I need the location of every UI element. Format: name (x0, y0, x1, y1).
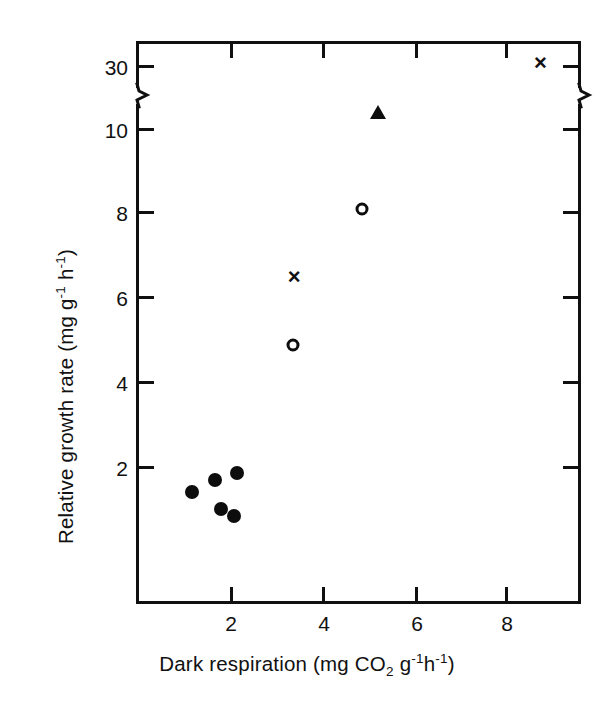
axis-spine-top (136, 41, 581, 44)
x-axis-title-mid2: h (424, 652, 436, 675)
x-axis-title-mid: g (394, 652, 412, 675)
ytick-label-4: 4 (90, 373, 128, 394)
axis-spine-left-lower (136, 104, 139, 604)
xtick-top-4 (322, 43, 325, 58)
ytick-right-2 (563, 466, 578, 469)
x-axis-title-exp1: -1 (411, 651, 423, 666)
y-axis-title-lead: Relative growth rate (mg g (54, 298, 77, 544)
data-point-filled-circle (214, 502, 228, 516)
xtick-top-8 (505, 43, 508, 58)
y-axis-title-mid: h (54, 268, 77, 286)
ytick-2 (139, 466, 154, 469)
xtick-8 (505, 587, 508, 602)
ytick-label-8: 8 (90, 203, 128, 224)
ytick-8 (139, 211, 154, 214)
x-axis-title-lead: Dark respiration (mg CO (159, 652, 386, 675)
xtick-4 (322, 587, 325, 602)
x-axis-title-tail: ) (448, 652, 455, 675)
y-axis-title-exp1: -1 (53, 286, 68, 298)
ytick-right-6 (563, 296, 578, 299)
ytick-right-8 (563, 211, 578, 214)
data-point-filled-circle (227, 509, 241, 523)
xtick-label-4: 4 (318, 613, 330, 634)
xtick-label-6: 6 (411, 613, 423, 634)
ytick-6 (139, 296, 154, 299)
xtick-top-2 (230, 43, 233, 58)
ytick-right-4 (563, 381, 578, 384)
ytick-30 (139, 65, 154, 68)
axis-break-right (568, 82, 598, 112)
x-axis-title-sub1: 2 (386, 664, 394, 679)
scatter-figure: 30 10 8 6 4 2 2 4 6 8 Relative growth ra… (0, 0, 614, 715)
xtick-6 (415, 587, 418, 602)
data-point-filled-triangle (370, 105, 386, 119)
ytick-4 (139, 381, 154, 384)
ytick-label-2: 2 (90, 458, 128, 479)
data-point-cross: × (531, 52, 549, 70)
data-point-filled-circle (230, 466, 244, 480)
y-axis-title-tail: ) (54, 249, 77, 256)
ytick-right-10 (563, 128, 578, 131)
ytick-label-6: 6 (90, 288, 128, 309)
y-axis-title-exp2: -1 (53, 256, 68, 268)
data-point-filled-circle (185, 485, 199, 499)
axis-break-left (126, 82, 156, 112)
xtick-label-2: 2 (225, 613, 237, 634)
ytick-right-30 (563, 65, 578, 68)
xtick-top-6 (415, 43, 418, 58)
axis-spine-right-upper (578, 41, 581, 88)
ytick-label-30: 30 (90, 57, 128, 78)
data-point-open-circle (355, 203, 368, 216)
data-point-filled-circle (208, 473, 222, 487)
axis-spine-bottom (136, 601, 581, 604)
axis-spine-right-lower (578, 104, 581, 604)
ytick-10 (139, 128, 154, 131)
data-point-cross: × (285, 266, 303, 284)
x-axis-title-exp2: -1 (435, 651, 447, 666)
xtick-label-8: 8 (501, 613, 513, 634)
ytick-label-10: 10 (90, 120, 128, 141)
data-point-open-circle (286, 338, 299, 351)
y-axis-title: Relative growth rate (mg g-1 h-1) (54, 249, 78, 544)
xtick-2 (230, 587, 233, 602)
x-axis-title: Dark respiration (mg CO2 g-1h-1) (0, 652, 614, 676)
